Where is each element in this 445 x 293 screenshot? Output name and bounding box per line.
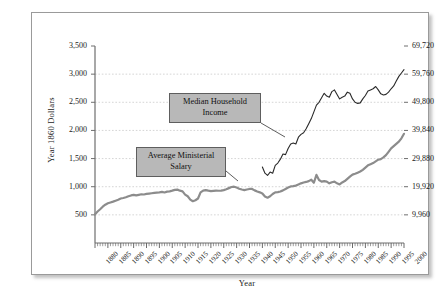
y-tick-label-right: 49,800 bbox=[412, 97, 445, 106]
callout-income-line2: Income bbox=[174, 107, 256, 118]
callout-median-household-income: Median Household Income bbox=[169, 93, 261, 123]
y-tick-label-right: 29,880 bbox=[412, 154, 445, 163]
y-tick-label-right: 9,960 bbox=[412, 210, 445, 219]
y-tick-label-left: 3,500 bbox=[45, 41, 87, 50]
leader-line-income bbox=[261, 123, 285, 137]
leader-line-salary bbox=[226, 171, 238, 181]
y-tick-label-right: 59,760 bbox=[412, 69, 445, 78]
y-tick-label-right: 39,840 bbox=[412, 125, 445, 134]
data-series-group bbox=[95, 70, 404, 215]
chart-frame: Year 1860 Dollars Year 2000 Dollars Year… bbox=[31, 12, 429, 275]
y-tick-label-left: 1,500 bbox=[45, 154, 87, 163]
plot-area bbox=[32, 13, 428, 274]
series-line bbox=[262, 70, 404, 176]
chart-figure: Year 1860 Dollars Year 2000 Dollars Year… bbox=[0, 0, 445, 293]
y-tick-label-right: 19,920 bbox=[412, 182, 445, 191]
callout-average-ministerial-salary: Average Ministerial Salary bbox=[136, 147, 226, 177]
axis-lines bbox=[95, 46, 404, 243]
y-tick-label-left: 500 bbox=[45, 210, 87, 219]
y-tick-label-left: 2,000 bbox=[45, 125, 87, 134]
callout-salary-line1: Average Ministerial bbox=[141, 150, 221, 161]
callout-income-line1: Median Household bbox=[174, 96, 256, 107]
x-axis-title: Year bbox=[207, 278, 287, 288]
y-tick-label-left: 2,500 bbox=[45, 97, 87, 106]
callout-leader-lines bbox=[226, 123, 285, 181]
y-tick-label-left: 3,000 bbox=[45, 69, 87, 78]
x-tick-marks bbox=[95, 243, 404, 248]
y-tick-label-left: 1,000 bbox=[45, 182, 87, 191]
y-tick-label-right: 69,720 bbox=[412, 41, 445, 50]
callout-salary-line2: Salary bbox=[141, 161, 221, 172]
